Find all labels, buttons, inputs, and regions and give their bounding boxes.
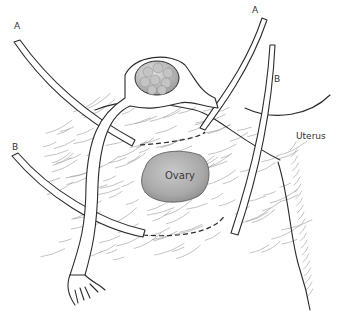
hatch-stroke [304,268,310,276]
label-b-right: B [274,74,280,84]
hatch-stroke [262,241,280,252]
hatch-stroke [282,239,297,244]
hatch-stroke [292,163,298,171]
hatch-stroke [141,139,160,144]
label-a-right: A [252,5,259,15]
hatch-stroke [59,239,71,242]
hatch-stroke [77,128,93,135]
vessel-a-left [14,40,135,146]
anatomical-diagram: Ovary A A B B Uterus [0,0,337,317]
hatch-stroke [53,152,71,162]
label-b-left: B [12,142,18,152]
hatch-stroke [298,212,304,220]
hatch-stroke [296,191,302,199]
hatch-stroke [150,107,181,121]
hatch-stroke [60,127,73,132]
hatch-stroke [252,210,275,223]
hatch-stroke [272,227,298,240]
hatch-stroke [302,247,308,255]
label-a-left: A [14,21,21,31]
hatch-stroke [126,200,138,205]
hatch-stroke [45,150,69,156]
hatch-stroke [250,245,269,253]
hatch-stroke [176,246,200,259]
hatch-stroke [103,176,115,181]
vessel-a-right [200,18,267,130]
hatch-stroke [209,144,237,154]
label-uterus: Uterus [296,131,326,141]
hatch-stroke [212,193,223,199]
hatch-stroke [114,257,124,260]
hatch-stroke [280,183,291,187]
hatch-stroke [223,177,238,184]
hatch-stroke [125,118,150,126]
dashed-line-upper [140,132,205,145]
hatch-stroke [238,127,252,130]
hatch-stroke [128,156,140,163]
hatch-stroke [74,138,94,144]
hatch-stroke [139,148,149,152]
hatch-stroke [208,124,230,133]
hatch-stroke [97,188,120,195]
fimbriae [68,275,105,305]
hatch-stroke [109,158,126,163]
hatch-stroke [242,208,270,223]
hatch-stroke [300,233,306,241]
hatch-stroke [263,202,281,211]
hatch-stroke [304,261,310,269]
diagram-canvas: Ovary A A B B Uterus [0,0,337,317]
hatch-stroke [67,178,86,184]
ovary-label: Ovary [165,170,195,181]
hatch-stroke [116,237,139,246]
hatch-stroke [306,282,312,290]
hatch-stroke [122,181,134,186]
hatch-stroke [297,205,303,213]
hatch-stroke [54,139,75,148]
hatch-stroke [43,142,56,147]
hatch-stroke [293,170,299,178]
hatch-stroke [46,121,72,134]
hatch-stroke [281,220,311,230]
hatch-stroke [101,181,124,188]
vessel-b-left [12,153,145,237]
hatch-stroke [257,162,275,172]
hatch-stroke [301,240,307,248]
hatch-stroke [219,200,235,206]
hatch-stroke [164,111,180,118]
hatch-stroke [299,219,305,227]
hatch-stroke [41,249,65,257]
hatch-stroke [303,254,309,262]
hatch-stroke [107,250,117,254]
hatch-stroke [296,198,302,206]
hatch-stroke [292,156,298,164]
hatch-stroke [264,192,276,196]
hatch-stroke [187,203,208,209]
hatch-stroke [156,126,177,133]
hatch-stroke [300,226,306,234]
hatch-stroke [305,275,311,283]
uterus-outline [245,95,330,115]
hatch-stroke [100,236,120,243]
hatch-stroke [205,232,220,240]
hatch-stroke [109,191,122,197]
hatch-stroke [206,170,236,185]
hatch-stroke [294,177,300,185]
